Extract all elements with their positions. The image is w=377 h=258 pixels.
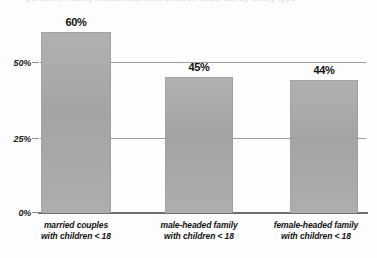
category-label-line1: female-headed family bbox=[274, 220, 358, 230]
cropped-title-remnant: percent of family households with childr… bbox=[0, 0, 377, 7]
plot-area: 60% 45% 44% bbox=[40, 14, 366, 213]
bar-married-couples bbox=[41, 32, 111, 213]
category-label-female-headed-family: female-headed family with children < 18 bbox=[255, 220, 377, 242]
bar-value-label-married-couples: 60% bbox=[41, 16, 111, 28]
bar-chart-figure: percent of family households with childr… bbox=[0, 0, 377, 258]
cropped-title-text: percent of family households with childr… bbox=[26, 0, 295, 3]
category-label-line1: married couples bbox=[44, 220, 108, 230]
bar-value-label-male-headed-family: 45% bbox=[165, 61, 233, 73]
category-label-line2: with children < 18 bbox=[255, 231, 377, 242]
bar-value-label-female-headed-family: 44% bbox=[290, 64, 358, 76]
y-tick-mark-25 bbox=[32, 138, 39, 139]
y-tick-label-0: 0% bbox=[0, 208, 31, 218]
category-label-line2: with children < 18 bbox=[134, 231, 264, 242]
y-tick-mark-0 bbox=[32, 212, 39, 213]
category-label-line1: male-headed family bbox=[160, 220, 237, 230]
bar-female-headed-family bbox=[290, 80, 358, 213]
bar-male-headed-family bbox=[165, 77, 233, 213]
y-tick-label-50: 50% bbox=[0, 58, 31, 68]
y-tick-mark-50 bbox=[32, 62, 39, 63]
category-label-line2: with children < 18 bbox=[11, 231, 141, 242]
category-label-male-headed-family: male-headed family with children < 18 bbox=[134, 220, 264, 242]
y-tick-label-25: 25% bbox=[0, 134, 31, 144]
category-label-married-couples: married couples with children < 18 bbox=[11, 220, 141, 242]
y-axis-labels: 50% 25% 0% bbox=[0, 14, 31, 213]
